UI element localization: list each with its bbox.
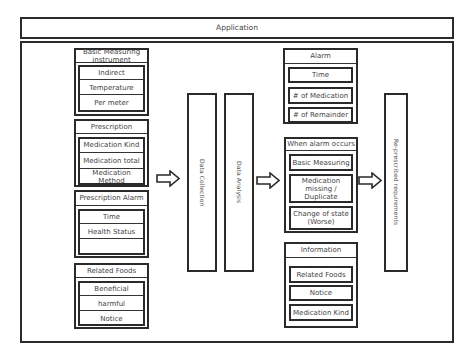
- application-title: Application: [216, 24, 258, 32]
- group-prescription-alarm-title: Prescription Alarm: [76, 191, 147, 206]
- group-alarm-title: Alarm: [285, 49, 356, 64]
- application-bar: Application: [20, 17, 454, 39]
- item-medication-method: Medication Method: [80, 170, 143, 184]
- item-medication-total: Medication total: [80, 154, 143, 169]
- arrow-right-icon: [358, 172, 382, 189]
- data-analysis-box: Data Analysis: [224, 93, 254, 272]
- item-time: Time: [80, 210, 143, 224]
- item-indirect: Indirect: [80, 66, 143, 80]
- arrow-right-icon: [256, 172, 280, 189]
- item-harmful: harmful: [80, 297, 143, 311]
- re-prescribed-requirements-label: Re-prescribed requirements: [393, 139, 400, 225]
- group-when-alarm-occurs-title: When alarm occurs: [286, 138, 356, 151]
- re-prescribed-requirements-box: Re-prescribed requirements: [384, 93, 408, 272]
- item-num-medication: # of Medication: [288, 87, 353, 104]
- item-basic-measuring: Basic Measuring: [289, 154, 353, 171]
- item-temperature: Temperature: [80, 81, 143, 95]
- item-empty: [80, 240, 143, 253]
- item-medication-kind: Medication Kind: [80, 138, 143, 153]
- group-related-foods-title: Related Foods: [76, 264, 147, 278]
- item-related-foods: Related Foods: [289, 266, 353, 283]
- item-info-medication-kind: Medication Kind: [289, 304, 353, 321]
- group-information-title: Information: [286, 243, 356, 258]
- data-collection-box: Data Collection: [187, 93, 217, 272]
- item-beneficial: Beneficial: [80, 282, 143, 296]
- data-collection-label: Data Collection: [199, 159, 206, 206]
- item-notice: Notice: [80, 312, 143, 325]
- group-basic-measuring-title: Basic Measuring instrument: [76, 49, 147, 63]
- arrow-right-icon: [156, 170, 180, 187]
- data-analysis-label: Data Analysis: [236, 161, 243, 203]
- group-prescription-title: Prescription: [76, 120, 147, 134]
- item-per-meter: Per meter: [80, 96, 143, 110]
- item-num-remainder: # of Remainder: [288, 107, 353, 123]
- item-health-status: Health Status: [80, 225, 143, 239]
- item-medication-missing-duplicate: Medication missing / Duplicate: [289, 174, 353, 203]
- item-info-notice: Notice: [289, 285, 353, 301]
- item-alarm-time: Time: [288, 67, 353, 83]
- item-change-of-state: Change of state (Worse): [289, 206, 353, 230]
